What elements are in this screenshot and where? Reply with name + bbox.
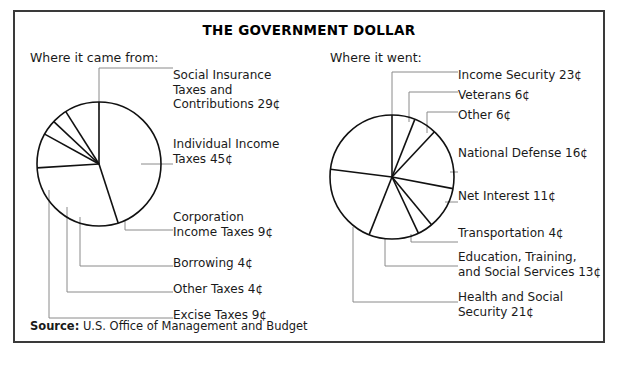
label-income-security: Income Security 23¢ (458, 68, 582, 83)
label-individual-income: Individual Income Taxes 45¢ (173, 137, 279, 166)
label-net-interest: Net Interest 11¢ (458, 189, 556, 204)
panel-heading-right: Where it went: (330, 50, 422, 65)
label-veterans: Veterans 6¢ (458, 88, 530, 103)
label-other-taxes: Other Taxes 4¢ (173, 282, 263, 297)
label-education-training: Education, Training, and Social Services… (458, 250, 601, 279)
label-transportation: Transportation 4¢ (458, 226, 564, 241)
label-social-insurance: Social Insurance Taxes and Contributions… (173, 68, 280, 112)
panel-heading-left: Where it came from: (30, 50, 159, 65)
label-borrowing: Borrowing 4¢ (173, 256, 253, 271)
leader-lines-left (49, 68, 173, 318)
source-note: Source: U.S. Office of Management and Bu… (30, 319, 308, 333)
chart-title: THE GOVERNMENT DOLLAR (15, 22, 603, 38)
source-label: Source: (30, 319, 79, 333)
source-text: U.S. Office of Management and Budget (83, 319, 308, 333)
pie-chart-left (37, 102, 161, 226)
figure-frame: THE GOVERNMENT DOLLAR Where it came from… (13, 10, 605, 343)
pie-chart-right (330, 115, 454, 239)
label-other: Other 6¢ (458, 108, 511, 123)
label-corporation-income: Corporation Income Taxes 9¢ (173, 210, 273, 239)
label-health-social-security: Health and Social Security 21¢ (458, 290, 563, 319)
label-national-defense: National Defense 16¢ (458, 146, 588, 161)
leader-lines-right (353, 72, 458, 302)
